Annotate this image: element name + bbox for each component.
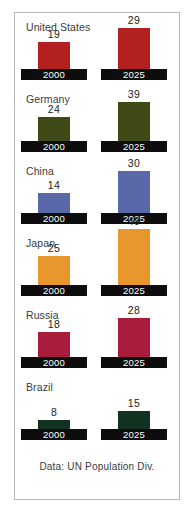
bar[interactable] (118, 171, 150, 213)
bar-value-label: 18 (21, 318, 87, 330)
bar-value-label: 39 (101, 88, 167, 100)
period-label: 2025 (101, 141, 167, 152)
bar[interactable] (38, 42, 70, 69)
chart-frame: United States192000292025Germany24200039… (14, 12, 180, 500)
period-label: 2000 (21, 285, 87, 296)
period-label: 2025 (101, 285, 167, 296)
bar[interactable] (118, 28, 150, 69)
period-label: 2000 (21, 357, 87, 368)
country-label: Brazil (26, 381, 53, 393)
period-label: 2025 (101, 357, 167, 368)
bar[interactable] (118, 229, 150, 285)
bar-value-label: 19 (21, 28, 87, 40)
period-label: 2025 (101, 69, 167, 80)
bar-value-label: 29 (101, 14, 167, 26)
bar-value-label: 15 (101, 397, 167, 409)
period-label: 2000 (21, 429, 87, 440)
bar-value-label: 8 (21, 406, 87, 418)
period-label: 2025 (101, 429, 167, 440)
bar[interactable] (38, 420, 70, 429)
bar-value-label: 25 (21, 242, 87, 254)
bar-value-label: 14 (21, 179, 87, 191)
bar[interactable] (38, 117, 70, 141)
bar[interactable] (118, 102, 150, 141)
period-label: 2000 (21, 213, 87, 224)
bar[interactable] (38, 193, 70, 213)
bar[interactable] (38, 332, 70, 357)
bar-value-label: 30 (101, 157, 167, 169)
bar-value-label: 28 (101, 304, 167, 316)
bar[interactable] (118, 318, 150, 357)
bar[interactable] (118, 411, 150, 429)
bar-value-label: 49 (101, 215, 167, 227)
bar-value-label: 24 (21, 103, 87, 115)
source-note: Data: UN Population Div. (15, 461, 179, 472)
bar[interactable] (38, 256, 70, 285)
period-label: 2000 (21, 69, 87, 80)
country-label: China (26, 165, 54, 177)
period-label: 2000 (21, 141, 87, 152)
